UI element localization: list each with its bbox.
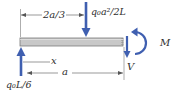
dimension-label-2a-3: 2a/3 xyxy=(43,10,65,20)
reaction-label: q₀L/6 xyxy=(6,80,31,90)
reaction-arrow xyxy=(17,47,26,76)
dimension-label-x: x xyxy=(51,56,57,66)
dimension-label-a: a xyxy=(62,67,68,77)
shear-label: V xyxy=(127,62,134,72)
moment-label: M xyxy=(160,38,170,48)
moment-arrow xyxy=(131,28,146,55)
point-load-label: q₀a²/2L xyxy=(91,7,126,17)
point-load-arrow xyxy=(82,2,91,37)
shear-arrow xyxy=(124,36,131,58)
beam xyxy=(20,38,124,46)
